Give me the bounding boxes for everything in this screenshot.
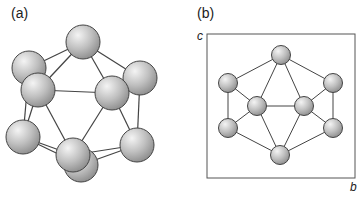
atom-sphere-inner-left <box>248 97 267 116</box>
atom-sphere-upper-right <box>324 74 343 93</box>
atom-sphere-top <box>66 25 100 59</box>
panel-b-label: (b) <box>197 5 214 21</box>
atom-sphere-front-upper-left <box>21 73 55 107</box>
atom-sphere-bottom <box>271 146 290 165</box>
atom-sphere-upper-left <box>219 74 238 93</box>
panel-b-atoms <box>219 46 343 165</box>
atom-sphere-front-bottom <box>56 138 90 172</box>
atom-sphere-top <box>272 46 291 65</box>
panel-a-label: (a) <box>11 5 28 21</box>
panel-a-atoms <box>6 25 157 182</box>
atom-sphere-lower-right <box>324 119 343 138</box>
axis-b-label: b <box>350 180 357 194</box>
panel-b-bonds <box>228 55 333 155</box>
atom-sphere-lower-left <box>219 119 238 138</box>
atom-sphere-inner-right <box>295 97 314 116</box>
atom-sphere-lower-left <box>6 120 40 154</box>
cluster-diagram <box>0 0 363 197</box>
panel-b-projection <box>207 34 355 178</box>
axis-c-label: c <box>197 29 203 43</box>
panel-a-structure <box>6 25 157 182</box>
atom-sphere-lower-right <box>120 128 154 162</box>
atom-sphere-front-center-right <box>95 76 129 110</box>
